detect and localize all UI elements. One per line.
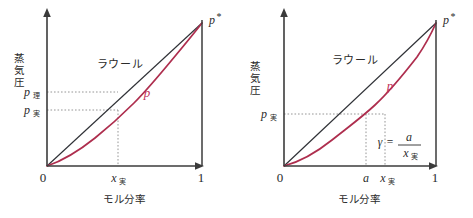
p-real-base: p (260, 107, 267, 121)
right-raoult-label: ラウール (332, 54, 379, 67)
right-y-axis-label-char-1: 蒸 (250, 60, 260, 72)
right-y-axis-arrowhead (280, 8, 288, 17)
right-axes (280, 8, 438, 170)
formula-gamma: γ (378, 136, 383, 149)
left-xtick-x-real: x 実 (110, 171, 125, 186)
right-p-star-label: p * (442, 11, 456, 27)
right-y-axis-label-char-3: 圧 (250, 84, 261, 96)
right-curve-label-p: p (386, 78, 394, 93)
left-axes (43, 8, 204, 170)
left-y-axis-label-char-1: 蒸 (14, 52, 24, 64)
left-xtick-one: 1 (198, 170, 205, 185)
left-xtick-zero: 0 (40, 170, 47, 185)
x-real-subscript: 実 (388, 177, 395, 186)
p-real-subscript: 実 (33, 109, 40, 118)
x-real-subscript: 実 (119, 177, 126, 186)
right-x-axis-label: モル分率 (338, 193, 380, 205)
left-y-axis-label: 蒸 気 圧 (14, 52, 25, 88)
formula-numerator: a (406, 130, 412, 144)
right-xtick-x-real: x 実 (379, 171, 394, 186)
formula-denominator-subscript: 実 (411, 152, 418, 161)
formula-denominator-base: x (402, 146, 409, 160)
activity-coefficient-formula: γ = a x 実 (378, 130, 421, 161)
left-y-tick-p-ideal: p 理 (23, 85, 40, 100)
p-ideal-base: p (23, 85, 30, 99)
right-y-axis-label-char-2: 気 (250, 72, 261, 84)
left-raoult-label: ラウール (97, 58, 144, 71)
right-panel-chart: 蒸 気 圧 p 実 0 a x (237, 0, 473, 218)
p-real-subscript: 実 (270, 113, 277, 122)
left-raoult-line (47, 23, 202, 166)
left-y-axis-label-char-2: 気 (14, 64, 25, 76)
right-y-axis-label: 蒸 気 圧 (250, 60, 261, 96)
x-real-base: x (379, 171, 386, 185)
right-y-tick-p-real: p 実 (260, 107, 277, 122)
p-star-base: p (208, 13, 215, 27)
right-xtick-zero: 0 (277, 170, 284, 185)
p-star-mark: * (451, 11, 456, 22)
p-real-base: p (23, 103, 30, 117)
right-xtick-one: 1 (432, 170, 439, 185)
figure-root: 蒸 気 圧 p 理 p 実 (0, 0, 473, 218)
p-star-base: p (442, 13, 449, 27)
left-panel-chart: 蒸 気 圧 p 理 p 実 (0, 0, 237, 218)
left-guide-lines (47, 92, 118, 166)
left-y-axis-arrowhead (43, 8, 51, 17)
left-p-star-label: p * (208, 11, 222, 27)
left-y-tick-p-real: p 実 (23, 103, 40, 118)
x-real-base: x (110, 171, 117, 185)
p-ideal-subscript: 理 (33, 92, 40, 100)
left-x-axis-label: モル分率 (103, 193, 145, 205)
right-xtick-activity-a: a (363, 171, 369, 185)
right-guide-lines (284, 114, 385, 166)
left-curve-label-p: p (143, 85, 151, 100)
formula-equals: = (387, 136, 394, 148)
p-star-mark: * (217, 11, 222, 22)
